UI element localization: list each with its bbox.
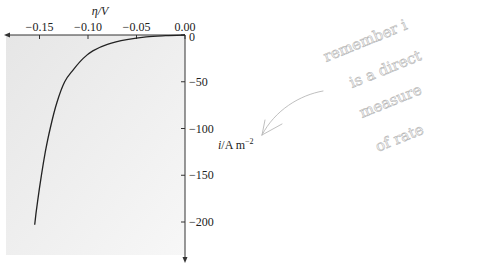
y-tick-label: 0 — [189, 30, 195, 44]
curved-arrow-icon — [262, 91, 323, 135]
svg-text:measure: measure — [357, 80, 425, 121]
x-tick-label: −0.15 — [26, 20, 54, 34]
handwritten-annotation: remember i is a direct measure of rate — [262, 16, 426, 156]
chart: −0.15−0.10−0.050.00 η/V 0−50−100−150−200… — [0, 0, 488, 267]
x-tick-label: −0.10 — [74, 20, 102, 34]
y-axis-label: i/A m−2 — [218, 137, 254, 152]
y-tick-label: −150 — [189, 168, 214, 182]
y-tick-label: −50 — [189, 75, 208, 89]
y-axis-arrow-icon — [183, 257, 188, 263]
y-axis: 0−50−100−150−200 i/A m−2 — [181, 30, 254, 263]
plot-area — [6, 35, 185, 255]
x-axis: −0.15−0.10−0.050.00 η/V — [4, 4, 196, 39]
svg-text:of rate: of rate — [373, 120, 427, 156]
x-tick-label: −0.05 — [123, 20, 151, 34]
y-tick-label: −100 — [189, 122, 214, 136]
x-axis-label: η/V — [92, 4, 110, 18]
y-tick-label: −200 — [189, 215, 214, 229]
